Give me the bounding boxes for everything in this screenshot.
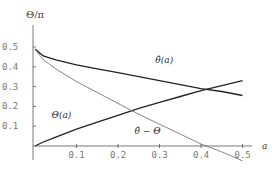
curve-label: θ̂(a) — [155, 55, 173, 65]
x-tick-label: 0.2 — [110, 150, 126, 160]
y-tick-label: 0.5 — [2, 42, 18, 52]
curve-label: Θ(a) — [52, 110, 72, 120]
series-line-2 — [35, 49, 243, 161]
curves — [35, 49, 243, 161]
chart: 0.10.20.30.40.5 0.10.20.30.40.5 Θ/π a θ̂… — [0, 0, 280, 176]
x-axis-title: a — [262, 141, 267, 151]
curve-labels: θ̂(a)Θ(a)θ̂ − Θ — [52, 55, 174, 136]
x-tick-label: 0.3 — [152, 150, 168, 160]
x-tick-label: 0.4 — [193, 150, 209, 160]
y-axis-title: Θ/π — [26, 9, 45, 20]
y-tick-label: 0.4 — [2, 62, 18, 72]
y-tick-label: 0.3 — [2, 82, 18, 92]
curve-label: θ̂ − Θ — [135, 126, 162, 136]
x-tick-label: 0.1 — [69, 150, 85, 160]
y-ticks: 0.10.20.30.40.5 — [2, 42, 36, 131]
y-tick-label: 0.1 — [2, 121, 18, 131]
y-tick-label: 0.2 — [2, 101, 18, 111]
